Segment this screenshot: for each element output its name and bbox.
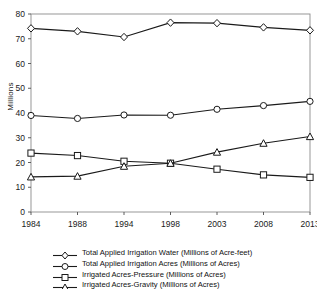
svg-text:1988: 1988 bbox=[68, 219, 87, 229]
legend-label: Irrigated Acres-Pressure (Millions of Ac… bbox=[78, 269, 226, 280]
svg-text:50: 50 bbox=[16, 83, 26, 93]
svg-text:0: 0 bbox=[20, 207, 25, 217]
svg-text:2013: 2013 bbox=[301, 219, 317, 229]
legend-item-irrigated-acres-pressure[interactable]: Irrigated Acres-Pressure (Millions of Ac… bbox=[52, 269, 317, 280]
svg-text:60: 60 bbox=[16, 59, 26, 69]
legend-label: Irrigated Acres-Gravity (Millions of Acr… bbox=[78, 281, 220, 289]
triangle-marker-icon bbox=[52, 281, 78, 289]
svg-text:1984: 1984 bbox=[22, 219, 41, 229]
diamond-marker-icon bbox=[52, 247, 78, 258]
svg-text:30: 30 bbox=[16, 133, 26, 143]
svg-text:1998: 1998 bbox=[161, 219, 180, 229]
chart-legend: Total Applied Irrigation Water (Millions… bbox=[52, 247, 317, 289]
square-marker-icon bbox=[52, 269, 78, 280]
svg-text:10: 10 bbox=[16, 182, 26, 192]
legend-item-total-applied-irrigation-water[interactable]: Total Applied Irrigation Water (Millions… bbox=[52, 247, 317, 258]
svg-text:40: 40 bbox=[16, 108, 26, 118]
legend-label: Total Applied Irrigation Acres (Millions… bbox=[78, 258, 240, 269]
plot-area: 0102030405060708019841988199419982003200… bbox=[0, 0, 317, 245]
legend-item-irrigated-acres-gravity[interactable]: Irrigated Acres-Gravity (Millions of Acr… bbox=[52, 281, 317, 289]
svg-text:2008: 2008 bbox=[254, 219, 273, 229]
svg-text:70: 70 bbox=[16, 34, 26, 44]
irrigation-line-chart: Millions 0102030405060708019841988199419… bbox=[0, 0, 317, 293]
svg-text:20: 20 bbox=[16, 158, 26, 168]
svg-text:80: 80 bbox=[16, 9, 26, 19]
legend-label: Total Applied Irrigation Water (Millions… bbox=[78, 247, 252, 258]
svg-text:1994: 1994 bbox=[115, 219, 134, 229]
circle-marker-icon bbox=[52, 258, 78, 269]
svg-text:2003: 2003 bbox=[208, 219, 227, 229]
legend-item-total-applied-irrigation-acres[interactable]: Total Applied Irrigation Acres (Millions… bbox=[52, 258, 317, 269]
